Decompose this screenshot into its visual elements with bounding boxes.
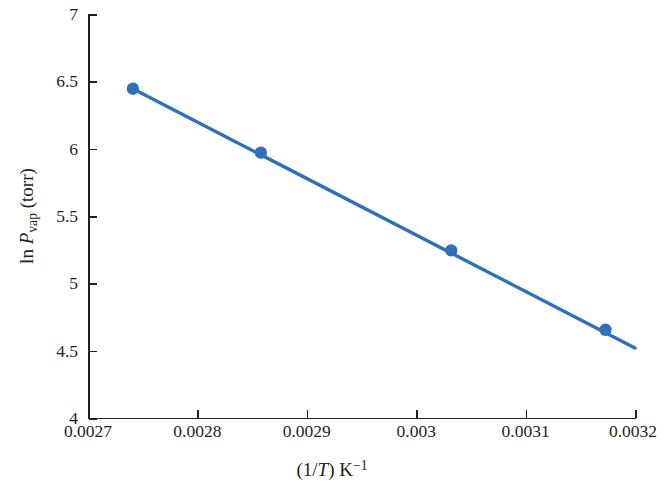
data-point-marker bbox=[127, 83, 139, 95]
data-point-marker bbox=[445, 244, 457, 256]
y-axis-title-ln: ln bbox=[16, 244, 37, 264]
data-point-marker bbox=[599, 324, 611, 336]
x-axis-title-exponent: −1 bbox=[353, 458, 368, 473]
y-axis-title-variable: P bbox=[16, 233, 37, 245]
x-axis-title-unit: K bbox=[339, 459, 353, 480]
series-group bbox=[127, 83, 635, 348]
y-axis-title-subscript: vap bbox=[25, 213, 40, 233]
chart-figure: 7 6.5 6 5.5 5 4.5 4 0.0027 0.0028 0.0029… bbox=[0, 0, 664, 497]
x-axis-title: (1/T) K−1 bbox=[0, 458, 664, 481]
y-axis-title-unit: (torr) bbox=[16, 168, 37, 213]
data-series-layer bbox=[0, 0, 664, 497]
x-axis-title-variable: T bbox=[318, 459, 329, 480]
x-axis-title-open: (1/ bbox=[296, 459, 317, 480]
y-axis-title: ln Pvap (torr) bbox=[16, 116, 41, 316]
trendline bbox=[133, 89, 635, 348]
data-point-marker bbox=[255, 147, 267, 159]
